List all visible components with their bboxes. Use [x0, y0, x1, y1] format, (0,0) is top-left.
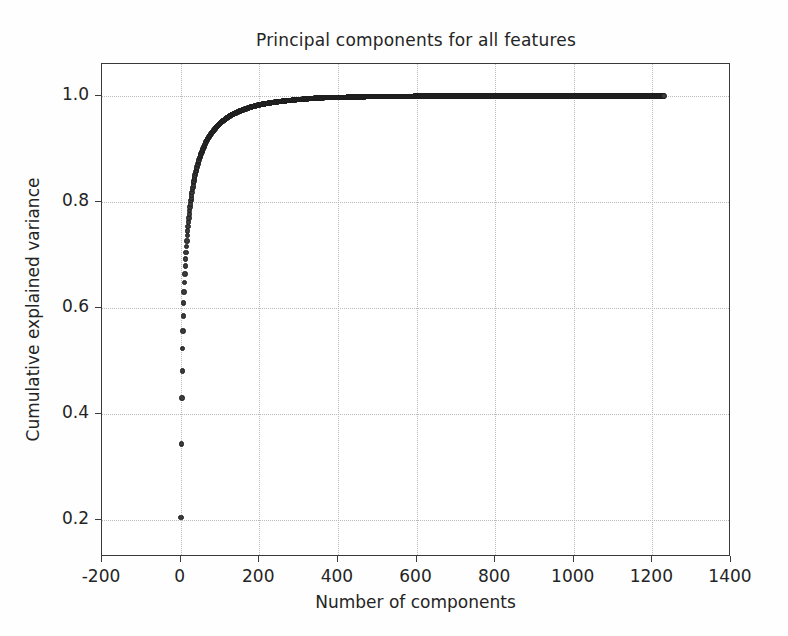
data-point: [180, 346, 185, 351]
x-axis-tick-label: -200: [61, 566, 141, 586]
chart-title: Principal components for all features: [101, 30, 731, 50]
data-point: [661, 93, 666, 98]
x-axis-tick: [337, 556, 338, 562]
data-point: [182, 271, 187, 276]
scatter-series: [102, 64, 729, 555]
x-axis-tick: [651, 556, 652, 562]
data-point: [182, 280, 187, 285]
data-point: [181, 289, 186, 294]
data-point: [179, 441, 184, 446]
x-axis-tick: [494, 556, 495, 562]
x-axis-tick-label: 200: [218, 566, 298, 586]
x-axis-tick: [258, 556, 259, 562]
y-axis-tick: [95, 519, 101, 520]
x-axis-tick: [180, 556, 181, 562]
data-point: [184, 238, 189, 243]
x-axis-tick-label: 800: [454, 566, 534, 586]
plot-area: [101, 63, 730, 556]
y-axis-tick: [95, 307, 101, 308]
y-axis-tick: [95, 95, 101, 96]
data-point: [183, 256, 188, 261]
y-axis-label: Cumulative explained variance: [23, 63, 47, 556]
x-axis-tick: [101, 556, 102, 562]
x-axis-tick-label: 1200: [611, 566, 691, 586]
y-axis-tick: [95, 201, 101, 202]
x-axis-tick-label: 600: [376, 566, 456, 586]
data-point: [181, 313, 186, 318]
data-point: [181, 300, 186, 305]
data-point: [180, 368, 185, 373]
data-point: [183, 250, 188, 255]
figure-canvas: Principal components for all features 0.…: [0, 0, 788, 636]
x-axis-tick: [730, 556, 731, 562]
data-point: [178, 515, 183, 520]
data-point: [183, 263, 188, 268]
x-axis-label: Number of components: [101, 592, 730, 612]
x-axis-tick-label: 1000: [533, 566, 613, 586]
x-axis-tick-label: 0: [140, 566, 220, 586]
x-axis-tick-label: 400: [297, 566, 377, 586]
x-axis-tick: [416, 556, 417, 562]
y-axis-tick: [95, 413, 101, 414]
data-point: [184, 244, 189, 249]
data-point: [185, 233, 190, 238]
x-axis-tick-label: 1400: [690, 566, 770, 586]
data-point: [185, 228, 190, 233]
data-point: [180, 328, 185, 333]
data-point: [179, 395, 184, 400]
x-axis-tick: [573, 556, 574, 562]
